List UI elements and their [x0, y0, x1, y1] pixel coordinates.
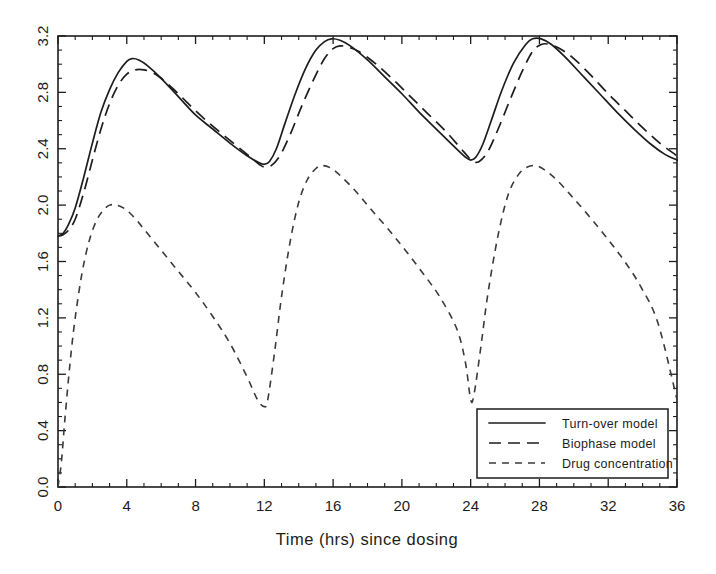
x-tick-label: 36	[669, 497, 686, 514]
x-axis-tick-labels: 04812162024283236	[54, 497, 686, 514]
x-tick-label: 28	[531, 497, 548, 514]
plot-canvas: 04812162024283236 0.00.40.81.21.62.02.42…	[0, 0, 716, 574]
legend-label-1: Turn-over model	[562, 417, 658, 431]
y-tick-label: 2.8	[34, 82, 51, 103]
x-tick-label: 0	[54, 497, 62, 514]
y-tick-label: 2.4	[34, 138, 51, 159]
y-axis-tick-labels: 0.00.40.81.21.62.02.42.83.2	[34, 26, 51, 498]
x-tick-label: 20	[394, 497, 411, 514]
x-tick-label: 4	[123, 497, 131, 514]
x-tick-label: 16	[325, 497, 342, 514]
x-tick-label: 24	[462, 497, 479, 514]
y-tick-label: 2.0	[34, 195, 51, 216]
x-tick-label: 32	[600, 497, 617, 514]
x-tick-label: 12	[256, 497, 273, 514]
chart-figure: 04812162024283236 0.00.40.81.21.62.02.42…	[0, 0, 716, 574]
chart-legend: Turn-over modelBiophase modelDrug concen…	[477, 409, 673, 478]
y-tick-label: 1.2	[34, 307, 51, 328]
y-tick-label: 0.8	[34, 364, 51, 385]
series-curve-2	[58, 44, 677, 236]
y-tick-label: 0.4	[34, 420, 51, 441]
y-tick-label: 1.6	[34, 251, 51, 272]
y-tick-label: 3.2	[34, 26, 51, 47]
x-tick-label: 8	[191, 497, 199, 514]
legend-label-2: Biophase model	[562, 437, 656, 451]
legend-label-3: Drug concentration	[562, 457, 673, 471]
x-axis-title: Time (hrs) since dosing	[276, 530, 458, 548]
y-tick-label: 0.0	[34, 477, 51, 498]
series-curve-1	[58, 38, 677, 236]
